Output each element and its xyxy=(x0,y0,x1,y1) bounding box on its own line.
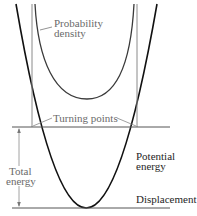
turning-point-pointer-left xyxy=(33,118,52,126)
probability-pointer-line xyxy=(40,27,52,30)
arrow-head-up-icon xyxy=(17,128,21,133)
turning-points-label: Turning points xyxy=(53,113,118,123)
displacement-label: Displacement xyxy=(136,194,196,204)
potential-energy-label-line2: energy xyxy=(136,161,166,171)
potential-energy-curve xyxy=(16,4,157,208)
total-energy-label-line2: energy xyxy=(5,176,37,186)
arrow-head-down-icon xyxy=(17,202,21,207)
probability-density-label-line2: density xyxy=(54,28,86,38)
